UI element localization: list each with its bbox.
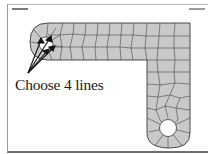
instruction-caption: Choose 4 lines [15, 76, 103, 94]
right-hole [160, 120, 177, 137]
